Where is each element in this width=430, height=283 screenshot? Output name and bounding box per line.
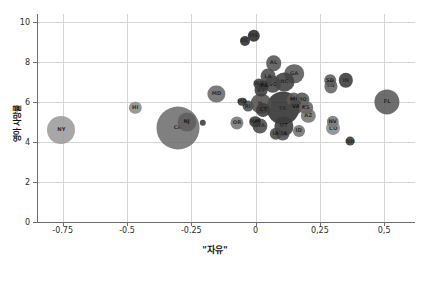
data-point-bubble: NH — [346, 136, 355, 145]
data-point-label: CT — [260, 107, 268, 112]
x-tick-label: 0,5 — [378, 226, 391, 235]
x-tick-label: 0,25 — [311, 226, 329, 235]
data-point-bubble: ID — [293, 125, 305, 137]
data-point-bubble: NM — [249, 116, 261, 128]
data-point-label: MS — [249, 33, 258, 38]
y-axis-label: 영아 사망률 — [11, 69, 22, 179]
data-point-label: NC — [280, 79, 288, 84]
x-axis-label: "자유" — [0, 243, 430, 256]
y-tick-mark — [33, 222, 37, 223]
data-point-bubble: MD — [238, 97, 247, 106]
data-point-label: ID — [296, 128, 302, 133]
chart-root: 영아 사망률 "자유" 0246810-0.75-0.5-0.2500,250,… — [0, 0, 430, 283]
y-tick-mark — [33, 182, 37, 183]
data-point-label: NY — [57, 127, 65, 132]
gridline-horizontal — [37, 142, 415, 143]
y-tick-label: 0 — [0, 218, 30, 227]
gridline-horizontal — [37, 22, 415, 23]
data-point-label: PA — [260, 83, 268, 88]
data-point-label: OR — [233, 120, 242, 125]
gridline-vertical — [384, 14, 385, 222]
data-point-label: AL — [270, 60, 278, 65]
data-point-label: KS — [302, 105, 310, 110]
gridline-horizontal — [37, 62, 415, 63]
data-point-label: NJ — [183, 119, 189, 124]
gridline-vertical — [127, 14, 128, 222]
y-tick-label: 8 — [0, 58, 30, 67]
x-axis-line — [37, 222, 415, 223]
x-tick-label: -0.25 — [181, 226, 202, 235]
x-tick-label: -0.5 — [119, 226, 135, 235]
data-point-bubble: CT — [256, 103, 270, 117]
data-point-label: SD — [326, 78, 334, 83]
y-tick-mark — [33, 142, 37, 143]
y-tick-mark — [33, 62, 37, 63]
y-tick-label: 10 — [0, 18, 30, 27]
data-point-label: NV — [328, 119, 337, 124]
gridline-horizontal — [37, 102, 415, 103]
data-point-bubble: NJ — [177, 112, 196, 131]
data-point-label: MD — [212, 91, 222, 96]
data-point-label: NM — [250, 119, 260, 124]
data-point-bubble: DE — [240, 36, 250, 46]
y-axis-line — [37, 14, 38, 222]
data-point-bubble: NY — [47, 116, 75, 144]
y-tick-mark — [33, 102, 37, 103]
y-tick-mark — [33, 22, 37, 23]
x-tick-label: -0.75 — [52, 226, 73, 235]
data-point-bubble: KS — [299, 101, 313, 115]
data-point-label: TX — [279, 105, 287, 110]
data-point-label: FL — [384, 99, 391, 104]
data-point-label: LA — [264, 73, 272, 78]
data-point-bubble: SD — [324, 75, 336, 87]
y-tick-label: 4 — [0, 138, 30, 147]
data-point-label: DE — [240, 38, 248, 43]
data-point-label: MD — [237, 99, 247, 104]
data-point-label: HI — [132, 105, 138, 110]
data-point-label: NH — [346, 138, 355, 143]
x-tick-label: 0 — [253, 226, 258, 235]
gridline-vertical — [320, 14, 321, 222]
y-tick-label: 6 — [0, 98, 30, 107]
data-point-label: IN — [343, 78, 349, 83]
y-tick-label: 2 — [0, 178, 30, 187]
plot-area — [37, 14, 415, 222]
gridline-horizontal — [37, 182, 415, 183]
data-point-label: IA — [273, 131, 279, 136]
